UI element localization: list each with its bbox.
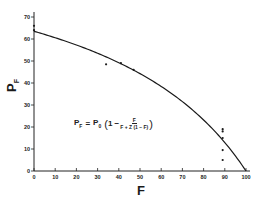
y-tick-label: 0 [27, 168, 30, 174]
x-tick-label: 90 [222, 174, 228, 180]
data-point [120, 62, 122, 64]
data-point [222, 149, 224, 151]
formula-close-paren: ) [149, 118, 153, 130]
formula-fraction: F F + Z (1 − F) [120, 117, 148, 130]
y-tick-label: 20 [24, 124, 30, 130]
y-ticks: 010203040506070 [24, 14, 34, 174]
y-tick-label: 30 [24, 102, 30, 108]
x-tick-label: 20 [73, 174, 79, 180]
formula-one-minus: 1 − [108, 119, 119, 128]
data-points [33, 25, 224, 161]
formula-denominator: F + Z (1 − F) [120, 124, 148, 130]
formula-annotation: PF = P0 ( 1 − F F + Z (1 − F) ) [74, 117, 153, 130]
y-tick-label: 40 [24, 80, 30, 86]
data-point [222, 137, 224, 139]
x-tick-label: 70 [179, 174, 185, 180]
chart-plot: 010203040506070 0102030405060708090100 F… [0, 0, 263, 205]
formula-numerator: F [132, 117, 137, 124]
data-point [105, 63, 107, 65]
x-tick-label: 10 [52, 174, 58, 180]
data-point [33, 29, 35, 31]
x-tick-label: 0 [32, 174, 35, 180]
x-tick-label: 30 [95, 174, 101, 180]
formula-lhs: PF [74, 118, 82, 129]
x-tick-label: 60 [158, 174, 164, 180]
y-tick-label: 10 [24, 146, 30, 152]
x-tick-label: 50 [137, 174, 143, 180]
x-tick-label: 100 [241, 174, 250, 180]
formula-rhs-coef: P0 [93, 118, 101, 129]
data-point [222, 128, 224, 130]
x-tick-label: 80 [201, 174, 207, 180]
y-tick-label: 70 [24, 14, 30, 20]
x-axis-label: F [137, 183, 145, 198]
data-point [133, 69, 135, 71]
x-ticks: 0102030405060708090100 [32, 168, 250, 180]
x-tick-label: 40 [116, 174, 122, 180]
data-point [222, 159, 224, 161]
svg-text:PF: PF [4, 78, 20, 92]
fitted-curve [34, 31, 246, 171]
axes [34, 12, 250, 171]
y-tick-label: 60 [24, 36, 30, 42]
y-axis-label: PF [4, 78, 20, 92]
data-point [222, 130, 224, 132]
data-point [33, 25, 35, 27]
y-tick-label: 50 [24, 58, 30, 64]
formula-equals: = [85, 119, 90, 128]
